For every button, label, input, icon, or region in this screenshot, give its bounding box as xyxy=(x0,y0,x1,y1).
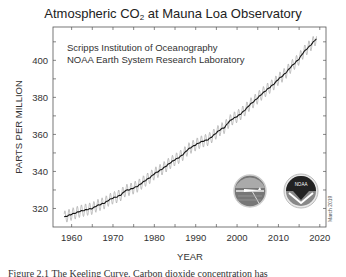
x-tick-label: 2010 xyxy=(268,232,289,243)
y-tick-label: 360 xyxy=(32,129,48,140)
y-axis-label: PARTS PER MILLION xyxy=(13,80,24,174)
y-tick-label: 380 xyxy=(32,92,48,103)
y-axis: 320340360380400 xyxy=(32,42,326,214)
x-tick-label: 2020 xyxy=(309,232,330,243)
date-stamp: March 2019 xyxy=(327,195,333,222)
x-tick-label: 1970 xyxy=(102,232,123,243)
x-tick-label: 1980 xyxy=(144,232,165,243)
x-axis-label: YEAR xyxy=(177,251,203,262)
noaa-logo-icon: NOAA xyxy=(284,174,318,208)
y-tick-label: 340 xyxy=(32,166,48,177)
figure-caption: Figure 2.1 The Keeling Curve. Carbon dio… xyxy=(8,268,268,277)
x-tick-label: 2000 xyxy=(226,232,247,243)
annotation-noaa: NOAA Earth System Research Laboratory xyxy=(67,54,245,65)
x-tick-label: 1990 xyxy=(185,232,206,243)
y-tick-label: 320 xyxy=(32,203,48,214)
annotation-scripps: Scripps Institution of Oceanography xyxy=(67,42,218,53)
chart-plot: 1960197019801990200020102020 32034036038… xyxy=(0,0,346,268)
scripps-logo-icon xyxy=(234,175,266,207)
x-tick-label: 1960 xyxy=(61,232,82,243)
annual-trend-line xyxy=(64,39,316,217)
y-tick-label: 400 xyxy=(32,55,48,66)
svg-text:NOAA: NOAA xyxy=(295,182,308,187)
